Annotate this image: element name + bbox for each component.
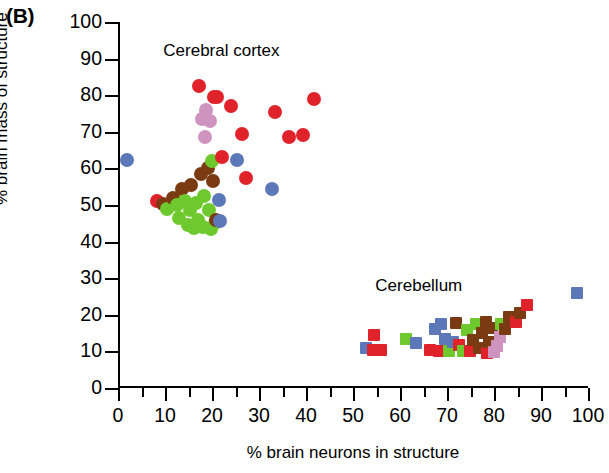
x-axis-tick-label: 40 xyxy=(295,406,317,426)
data-point xyxy=(197,189,211,203)
y-axis-tick xyxy=(105,242,118,244)
y-axis-tick-label: 10 xyxy=(80,342,102,362)
x-axis-tick-label: 0 xyxy=(113,406,124,426)
y-axis-tick xyxy=(105,315,118,317)
data-point xyxy=(210,90,224,104)
y-axis-tick xyxy=(105,351,118,353)
x-axis-tick xyxy=(118,388,120,401)
x-axis-tick xyxy=(471,388,473,397)
x-axis-tick xyxy=(212,388,214,401)
x-axis-tick-label: 30 xyxy=(248,406,270,426)
y-axis-tick xyxy=(105,278,118,280)
y-axis-tick xyxy=(105,205,118,207)
y-axis-tick-label: 80 xyxy=(80,85,102,105)
x-axis-tick xyxy=(494,388,496,401)
x-axis-tick xyxy=(165,388,167,401)
scatter-plot-area: 0102030405060708090100010203040506070809… xyxy=(118,22,588,388)
data-point xyxy=(198,130,212,144)
data-point xyxy=(268,105,282,119)
x-axis-tick xyxy=(447,388,449,401)
data-point xyxy=(120,153,134,167)
y-axis-tick-label: 20 xyxy=(80,305,102,325)
y-axis-tick-label: 60 xyxy=(80,159,102,179)
y-axis-tick xyxy=(105,22,118,24)
data-point xyxy=(410,337,422,349)
y-axis-tick xyxy=(105,95,118,97)
x-axis-tick xyxy=(306,388,308,401)
y-axis-tick xyxy=(105,59,118,61)
x-axis-tick xyxy=(400,388,402,401)
y-axis-tick xyxy=(105,388,118,390)
y-axis-tick-label: 90 xyxy=(80,49,102,69)
y-axis-tick-label: 30 xyxy=(80,268,102,288)
y-axis-tick xyxy=(105,132,118,134)
x-axis-tick xyxy=(236,388,238,397)
y-axis-tick-label: 0 xyxy=(91,378,102,398)
x-axis-tick xyxy=(330,388,332,397)
data-point xyxy=(203,114,217,128)
data-point xyxy=(571,287,583,299)
x-axis-tick-label: 10 xyxy=(154,406,176,426)
y-axis-title: % brain mass of structure xyxy=(0,12,12,205)
y-axis-tick-label: 50 xyxy=(80,195,102,215)
x-axis-tick xyxy=(189,388,191,397)
data-point xyxy=(307,92,321,106)
y-axis-tick-label: 40 xyxy=(80,232,102,252)
data-point xyxy=(375,344,387,356)
data-point xyxy=(212,193,226,207)
series-annotation: Cerebral cortex xyxy=(163,41,279,61)
x-axis-tick xyxy=(541,388,543,401)
x-axis-tick-label: 70 xyxy=(436,406,458,426)
data-point xyxy=(206,174,220,188)
data-point xyxy=(239,171,253,185)
x-axis-tick xyxy=(377,388,379,397)
x-axis-tick xyxy=(353,388,355,401)
x-axis-title: % brain neurons in structure xyxy=(118,443,588,463)
x-axis-tick xyxy=(424,388,426,397)
data-point xyxy=(230,153,244,167)
data-point xyxy=(215,150,229,164)
data-point xyxy=(184,178,198,192)
data-point xyxy=(282,130,296,144)
data-point xyxy=(296,128,310,142)
x-axis-tick-label: 20 xyxy=(201,406,223,426)
data-point xyxy=(213,214,227,228)
y-axis-tick-label: 70 xyxy=(80,122,102,142)
y-axis-tick-label: 100 xyxy=(69,12,102,32)
x-axis-tick-label: 60 xyxy=(389,406,411,426)
series-annotation: Cerebellum xyxy=(375,276,462,296)
data-point xyxy=(521,299,533,311)
x-axis-tick xyxy=(588,388,590,401)
x-axis-tick-label: 50 xyxy=(342,406,364,426)
x-axis-tick xyxy=(518,388,520,397)
data-point xyxy=(192,79,206,93)
data-point xyxy=(265,182,279,196)
x-axis-tick-label: 80 xyxy=(483,406,505,426)
data-point xyxy=(435,318,447,330)
x-axis-tick-label: 100 xyxy=(572,406,605,426)
data-point xyxy=(368,329,380,341)
data-point xyxy=(235,127,249,141)
x-axis-tick xyxy=(565,388,567,397)
x-axis-tick xyxy=(259,388,261,401)
data-point xyxy=(224,99,238,113)
x-axis-tick-label: 90 xyxy=(530,406,552,426)
x-axis-tick xyxy=(142,388,144,397)
y-axis-tick xyxy=(105,168,118,170)
x-axis-tick xyxy=(283,388,285,397)
